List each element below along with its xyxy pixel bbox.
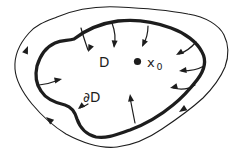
domain-label: D	[99, 54, 109, 70]
flow-direction-arrowhead-bottom-right	[177, 105, 187, 115]
vector-field-domain-diagram: D ∂D x 0	[0, 0, 237, 157]
point-label-subscript: 0	[157, 61, 163, 72]
boundary-label: ∂D	[83, 89, 100, 105]
flow-direction-arrowhead-left	[22, 45, 31, 55]
inward-arrow-right-2	[169, 83, 195, 91]
inward-arrow-left	[39, 76, 63, 85]
outer-flow-curve	[15, 7, 228, 148]
marked-point-dot	[134, 58, 141, 65]
figure-canvas: D ∂D x 0	[0, 0, 237, 157]
flow-direction-arrowhead-bottom-left	[44, 115, 54, 125]
point-label: x	[147, 55, 155, 70]
inward-arrow-top-2	[111, 23, 118, 48]
inward-arrow-bottom	[127, 94, 135, 123]
inward-arrow-top-3	[139, 26, 148, 48]
inward-arrow-top-right	[175, 42, 197, 58]
